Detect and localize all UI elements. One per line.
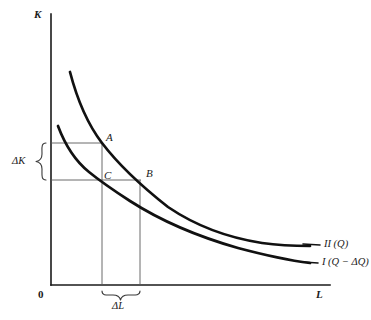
origin-label: 0 [38, 289, 44, 300]
delta-l-label: ΔL [112, 301, 124, 312]
leader-line-lower [303, 262, 318, 263]
curve-label-lower: I (Q − ΔQ) [322, 257, 369, 268]
isoquant-curve-upper [70, 72, 310, 246]
point-label-b: B [146, 168, 153, 179]
y-axis-label: K [34, 9, 41, 20]
figure-canvas [0, 0, 371, 320]
point-label-a: A [106, 132, 113, 143]
isoquant-curve-lower [58, 126, 310, 263]
isoquant-figure: K L 0 A B C ΔK ΔL II (Q) I (Q − ΔQ) [0, 0, 371, 320]
curve-label-upper: II (Q) [324, 239, 348, 250]
point-label-c: C [104, 170, 111, 181]
x-axis-label: L [316, 289, 323, 300]
delta-k-label: ΔK [12, 156, 25, 167]
delta-k-brace [36, 143, 46, 180]
leader-line-upper [303, 244, 320, 245]
delta-l-brace [102, 291, 140, 300]
